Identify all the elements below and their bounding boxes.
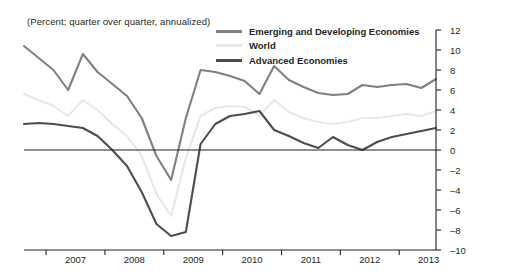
y-axis-tick-label: –10 <box>450 245 466 256</box>
y-axis-tick-label: 10 <box>450 45 461 56</box>
plot-svg <box>24 30 436 250</box>
chart-figure: (Percent; quarter over quarter, annualiz… <box>0 0 506 280</box>
x-axis-tick-label: 2012 <box>359 254 380 265</box>
plot-area <box>24 30 436 250</box>
chart-title: (Percent; quarter over quarter, annualiz… <box>27 16 210 27</box>
y-axis-tick-label: –8 <box>450 225 461 236</box>
y-axis-tick-label: 12 <box>450 25 461 36</box>
series-line <box>24 94 436 216</box>
x-axis-tick-label: 2008 <box>124 254 145 265</box>
x-axis-tick-label: 2009 <box>183 254 204 265</box>
x-axis-tick-label: 2010 <box>241 254 262 265</box>
y-axis-tick-label: –4 <box>450 185 461 196</box>
x-axis-tick-label: 2013 <box>418 254 439 265</box>
series-line <box>24 111 436 236</box>
x-axis-tick-label: 2007 <box>65 254 86 265</box>
y-axis-tick-label: 8 <box>450 65 455 76</box>
x-axis-tick-label: 2011 <box>301 254 321 265</box>
y-axis-tick-label: 0 <box>450 145 455 156</box>
series-line <box>24 46 436 180</box>
y-axis-tick-label: 4 <box>450 105 455 116</box>
series-layer <box>24 46 436 236</box>
y-axis-tick-label: –2 <box>450 165 461 176</box>
y-axis-tick-label: 2 <box>450 125 455 136</box>
y-axis-tick-label: 6 <box>450 85 455 96</box>
y-axis-tick-label: –6 <box>450 205 461 216</box>
